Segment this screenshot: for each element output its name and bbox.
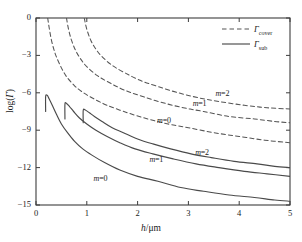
y-tick-label: −15	[5, 199, 31, 209]
series-curve-sub_m2	[83, 109, 290, 167]
chart-plot-area	[0, 0, 302, 242]
chart-figure: log(Γ) h/μm 0123450−3−6−9−12−15 m=2m=1m=…	[0, 0, 302, 242]
curve-label-sub_m0: m=0	[94, 174, 108, 183]
x-tick-label: 1	[77, 208, 97, 218]
y-tick-label: −9	[5, 124, 31, 134]
curve-label-cover_m1: m=1	[193, 99, 207, 108]
x-tick-label: 3	[178, 208, 198, 218]
x-tick-label: 5	[280, 208, 300, 218]
x-tick-label: 0	[26, 208, 46, 218]
x-tick-label: 2	[128, 208, 148, 218]
legend-entry-sub: Γsub	[254, 39, 267, 51]
y-tick-label: −12	[5, 162, 31, 172]
legend-entry-cover: Γcover	[254, 24, 272, 36]
series-curve-sub_m1	[65, 103, 290, 177]
curve-label-sub_m1: m=1	[149, 155, 163, 164]
x-tick-label: 4	[229, 208, 249, 218]
y-tick-label: −6	[5, 87, 31, 97]
curve-label-sub_m2: m=2	[195, 148, 209, 157]
x-axis-label: h/μm	[0, 223, 302, 233]
curve-label-cover_m2: m=2	[216, 89, 230, 98]
y-tick-label: −3	[5, 49, 31, 59]
x-axis-label-text: h/μm	[141, 223, 161, 233]
curve-label-cover_m0: m=0	[157, 116, 171, 125]
y-tick-label: 0	[5, 12, 31, 22]
